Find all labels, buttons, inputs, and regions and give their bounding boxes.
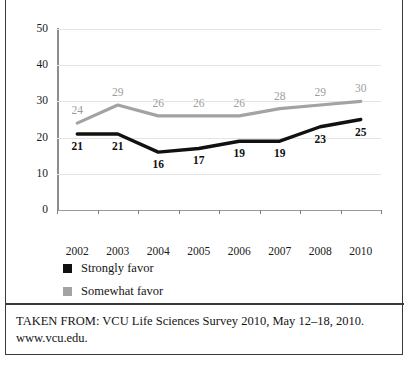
x-tick-label-2010: 2010 [338,245,384,257]
legend-swatch-icon [63,264,72,273]
series-line-somewhat-favor [77,101,361,123]
x-tick-label-2002: 2002 [54,245,100,257]
series-lines [57,29,381,210]
point-label-strongly-favor-2004: 16 [141,159,175,171]
point-label-strongly-favor-2002: 21 [60,141,94,153]
point-label-somewhat-favor-2002: 24 [60,105,94,117]
x-tick-mark [260,210,261,214]
point-label-strongly-favor-2010: 25 [344,127,378,139]
chart-region: 01020304050 2002200320042005200620072008… [6,0,404,296]
y-tick-label-40: 40 [14,59,48,71]
point-label-somewhat-favor-2010: 30 [344,83,378,95]
point-label-somewhat-favor-2005: 26 [182,98,216,110]
point-label-somewhat-favor-2004: 26 [141,98,175,110]
x-tick-label-2004: 2004 [135,245,181,257]
x-tick-mark [57,210,58,214]
caption-divider [6,303,404,305]
x-tick-label-2008: 2008 [297,245,343,257]
plot-area: 01020304050 2002200320042005200620072008… [57,29,381,210]
x-tick-mark [138,210,139,214]
legend-label: Strongly favor [81,262,154,275]
point-label-strongly-favor-2007: 19 [263,148,297,160]
legend-label: Somewhat favor [81,285,163,298]
y-tick-label-50: 50 [14,23,48,35]
legend-item-somewhat-favor: Somewhat favor [63,282,163,301]
legend-item-strongly-favor: Strongly favor [63,259,163,278]
x-tick-mark [98,210,99,214]
chart-legend: Strongly favorSomewhat favor [63,259,163,305]
point-label-strongly-favor-2006: 19 [222,148,256,160]
point-label-somewhat-favor-2007: 28 [263,91,297,103]
y-tick-label-0: 0 [14,204,48,216]
caption-url-text: www.vcu.edu. [16,330,396,347]
point-label-strongly-favor-2008: 23 [303,134,337,146]
point-label-somewhat-favor-2003: 29 [101,87,135,99]
x-tick-mark [219,210,220,214]
point-label-somewhat-favor-2006: 26 [222,98,256,110]
x-tick-mark [381,210,382,214]
x-tick-label-2003: 2003 [95,245,141,257]
x-tick-label-2006: 2006 [216,245,262,257]
y-tick-label-20: 20 [14,132,48,144]
x-tick-mark [341,210,342,214]
x-tick-mark [300,210,301,214]
legend-swatch-icon [63,287,72,296]
x-tick-mark [179,210,180,214]
x-tick-label-2005: 2005 [176,245,222,257]
caption: TAKEN FROM: VCU Life Sciences Survey 201… [16,313,396,347]
y-tick-label-10: 10 [14,168,48,180]
figure-frame: 01020304050 2002200320042005200620072008… [5,0,403,355]
point-label-strongly-favor-2005: 17 [182,155,216,167]
point-label-strongly-favor-2003: 21 [101,141,135,153]
caption-source-text: TAKEN FROM: VCU Life Sciences Survey 201… [16,313,396,330]
x-tick-label-2007: 2007 [257,245,303,257]
point-label-somewhat-favor-2008: 29 [303,87,337,99]
y-tick-label-30: 30 [14,95,48,107]
